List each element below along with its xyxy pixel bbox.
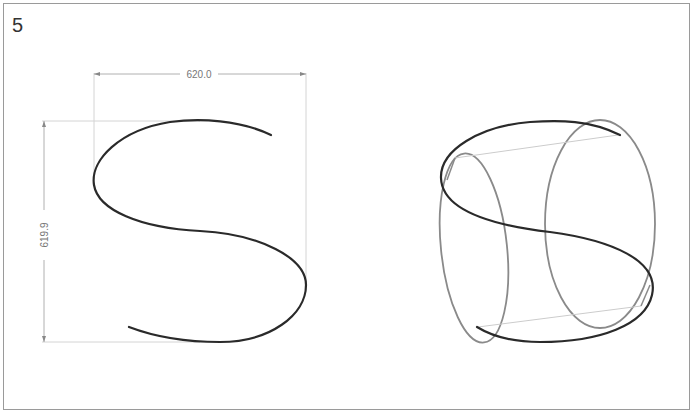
s-curve-flat <box>94 120 306 342</box>
width-dimension-label: 620.0 <box>186 69 211 80</box>
width-dimension <box>94 72 306 290</box>
figure-canvas: 620.0 619.9 <box>0 0 693 418</box>
height-dimension <box>42 121 200 342</box>
height-dimension-label: 619.9 <box>39 222 50 247</box>
cylinder-wireframe <box>431 120 655 346</box>
